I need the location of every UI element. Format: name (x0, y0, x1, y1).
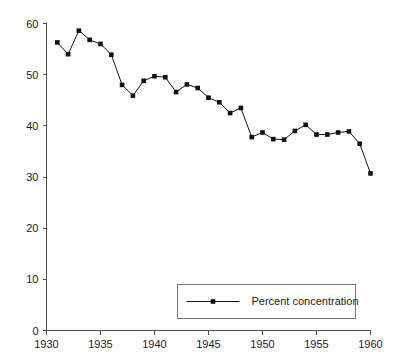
data-point-marker (131, 93, 136, 98)
data-point-marker (163, 75, 168, 80)
x-axis-tick-label: 1945 (196, 338, 220, 350)
data-point-marker (87, 38, 92, 43)
y-axis-tick-label: 20 (26, 222, 38, 234)
chart-legend: Percent concentration (178, 285, 359, 319)
x-axis: 1930193519401945195019551960 (34, 331, 382, 350)
data-point-marker (109, 52, 114, 57)
data-point-marker (282, 137, 287, 142)
data-point-marker (55, 40, 60, 45)
data-point-marker (120, 83, 125, 88)
data-point-marker (77, 28, 82, 33)
data-point-marker (314, 132, 319, 137)
data-point-marker (347, 129, 352, 134)
data-point-marker (206, 95, 211, 100)
x-axis-tick-label: 1940 (142, 338, 166, 350)
data-point-marker (228, 111, 233, 116)
data-point-marker (271, 137, 276, 142)
data-point-marker (185, 82, 190, 87)
data-point-marker (239, 106, 244, 111)
y-axis-tick-label: 0 (32, 325, 38, 337)
data-point-marker (249, 135, 254, 140)
y-axis: 0102030405060 (26, 18, 46, 337)
series-percent-concentration (55, 28, 373, 175)
data-point-marker (357, 141, 362, 146)
data-point-marker (217, 100, 222, 105)
chart-container: 0102030405060 19301935194019451950195519… (0, 0, 396, 364)
data-point-marker (293, 129, 298, 134)
x-axis-tick-label: 1955 (304, 338, 328, 350)
x-axis-tick-label: 1960 (358, 338, 382, 350)
y-axis-tick-label: 60 (26, 18, 38, 30)
line-chart: 0102030405060 19301935194019451950195519… (0, 0, 396, 364)
y-axis-tick-label: 40 (26, 120, 38, 132)
data-point-marker (260, 130, 265, 135)
y-axis-tick-label: 50 (26, 69, 38, 81)
data-point-marker (368, 171, 373, 176)
data-point-marker (336, 130, 341, 135)
data-point-marker (141, 79, 146, 84)
data-point-marker (66, 52, 71, 57)
data-point-marker (303, 123, 308, 128)
data-point-marker (98, 42, 103, 47)
x-axis-tick-label: 1930 (34, 338, 58, 350)
data-point-marker (195, 86, 200, 91)
data-point-marker (174, 90, 179, 95)
y-axis-tick-label: 10 (26, 273, 38, 285)
x-axis-tick-label: 1950 (250, 338, 274, 350)
data-point-marker (325, 132, 330, 137)
legend-label: Percent concentration (252, 295, 359, 307)
y-axis-tick-label: 30 (26, 171, 38, 183)
x-axis-tick-label: 1935 (88, 338, 112, 350)
series-line (57, 31, 370, 174)
data-point-marker (152, 74, 157, 79)
legend-sample-marker (211, 299, 216, 304)
